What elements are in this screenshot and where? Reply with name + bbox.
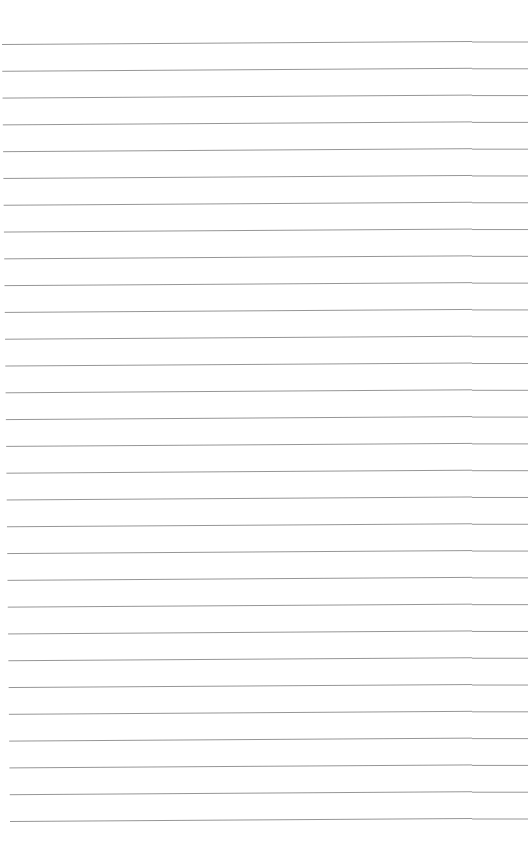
ruled-line	[7, 497, 528, 500]
ruled-lines	[0, 0, 530, 867]
ruled-line	[8, 604, 528, 607]
lined-paper-page	[0, 0, 530, 867]
ruled-line	[3, 149, 528, 152]
ruled-line	[6, 470, 528, 473]
ruled-line	[3, 95, 528, 98]
ruled-line	[2, 68, 528, 71]
ruled-line	[8, 631, 528, 634]
ruled-line	[2, 42, 528, 45]
ruled-line	[5, 363, 528, 366]
ruled-line	[3, 122, 528, 125]
ruled-line	[4, 229, 528, 232]
ruled-line	[5, 309, 528, 312]
ruled-line	[9, 711, 528, 714]
ruled-line	[6, 443, 528, 446]
ruled-line	[6, 390, 528, 393]
ruled-line	[4, 283, 528, 286]
ruled-line	[8, 577, 528, 580]
ruled-line	[10, 792, 528, 795]
ruled-line	[7, 551, 528, 554]
ruled-line	[7, 524, 528, 527]
ruled-line	[8, 658, 528, 661]
ruled-line	[3, 175, 528, 178]
ruled-line	[6, 417, 528, 420]
ruled-line	[10, 819, 528, 822]
ruled-line	[9, 738, 528, 741]
ruled-line	[5, 336, 528, 339]
ruled-line	[4, 202, 528, 205]
ruled-line	[4, 256, 528, 259]
ruled-line	[9, 685, 528, 688]
ruled-line	[9, 765, 528, 768]
